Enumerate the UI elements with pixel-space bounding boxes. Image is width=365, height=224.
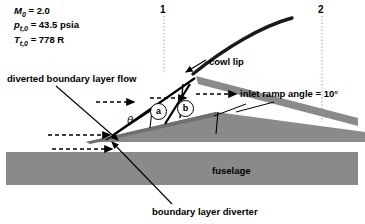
- region-b-label: b: [177, 100, 194, 117]
- flight-conditions-block: M0 = 2.0 pt,0 = 43.5 psia Tt,0 = 778 R: [14, 6, 79, 49]
- leader-ramp-angle-b: [236, 102, 274, 112]
- pressure-subscript: t,0: [20, 25, 28, 32]
- fuselage-body: [6, 152, 358, 185]
- diverter-label: boundary layer diverter: [152, 207, 258, 218]
- pressure-line: pt,0 = 43.5 psia: [14, 20, 79, 33]
- fuselage-label: fuselage: [212, 166, 251, 177]
- station-1-label: 1: [160, 4, 166, 16]
- mach-symbol: M: [14, 5, 22, 16]
- station-2-label: 2: [318, 4, 324, 16]
- temperature-value: = 778 R: [31, 34, 65, 45]
- temperature-subscript: t,0: [20, 40, 28, 47]
- theta-angle-label: θ: [127, 114, 133, 127]
- ramp-angle-label: inlet ramp angle = 10°: [240, 89, 338, 100]
- diverted-flow-label: diverted boundary layer flow: [7, 74, 136, 85]
- mach-subscript: 0: [22, 11, 26, 18]
- temperature-line: Tt,0 = 778 R: [14, 35, 79, 48]
- mach-value: = 2.0: [28, 5, 49, 16]
- pressure-value: = 43.5 psia: [31, 19, 79, 30]
- mach-line: M0 = 2.0: [14, 6, 79, 19]
- leader-diverted-flow: [56, 86, 118, 140]
- region-a-label: a: [150, 103, 167, 120]
- cowl-lip-label: cowl lip: [209, 57, 244, 68]
